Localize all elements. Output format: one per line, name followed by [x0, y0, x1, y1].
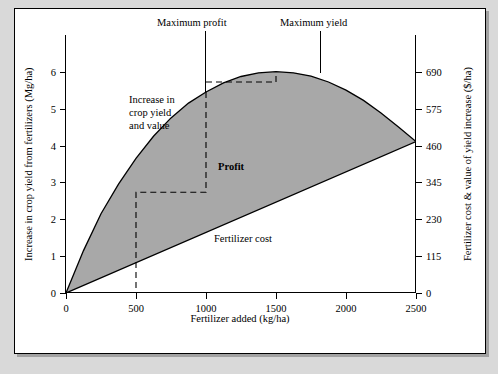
y-axis-right: 0 115 230 345 460 575 690: [415, 35, 416, 293]
y-label-left-2: 2: [40, 214, 56, 225]
y-tick-left-4: [60, 146, 66, 147]
annotation-yield-increase-line2: crop yield: [129, 106, 175, 119]
annotation-maximum-profit: Maximum profit: [157, 17, 227, 28]
x-label-1500: 1500: [266, 303, 287, 314]
leader-maximum-yield: [320, 31, 321, 73]
y-label-left-0: 0: [40, 288, 56, 299]
x-tick-500: [136, 293, 137, 299]
x-tick-1000: [206, 293, 207, 299]
y-tick-right-575: [416, 109, 422, 110]
x-label-0: 0: [63, 303, 68, 314]
y-tick-left-1: [60, 256, 66, 257]
annotation-fertilizer-cost: Fertilizer cost: [214, 233, 272, 244]
figure-panel: Increase in crop yield from fertilizers …: [14, 8, 486, 354]
y-label-left-6: 6: [40, 66, 56, 77]
y-label-right-230: 230: [426, 214, 442, 225]
y-tick-right-460: [416, 146, 422, 147]
profit-area-shape: [66, 72, 416, 293]
y-label-right-690: 690: [426, 66, 442, 77]
y-axis-left-title: Increase in crop yield from fertilizers …: [23, 35, 34, 293]
y-tick-right-0: [416, 293, 422, 294]
x-axis-title: Fertilizer added (kg/ha): [65, 313, 415, 324]
x-label-2000: 2000: [336, 303, 357, 314]
x-tick-2000: [346, 293, 347, 299]
y-label-left-3: 3: [40, 177, 56, 188]
annotation-maximum-yield: Maximum yield: [280, 17, 347, 28]
plot-area: 0 1 2 3 4 5 6 0 500 1000 1500 2000 2500 …: [65, 35, 415, 293]
y-label-left-1: 1: [40, 251, 56, 262]
annotation-yield-increase-line3: and value: [129, 119, 175, 132]
x-label-1000: 1000: [196, 303, 217, 314]
y-tick-left-2: [60, 219, 66, 220]
annotation-profit: Profit: [218, 161, 244, 172]
x-label-2500: 2500: [406, 303, 427, 314]
y-tick-right-230: [416, 219, 422, 220]
y-label-right-115: 115: [426, 251, 441, 262]
y-tick-right-690: [416, 72, 422, 73]
y-tick-right-115: [416, 256, 422, 257]
y-label-right-575: 575: [426, 103, 442, 114]
y-label-right-460: 460: [426, 140, 442, 151]
x-tick-0: [66, 293, 67, 299]
y-label-left-4: 4: [40, 140, 56, 151]
annotation-yield-increase-line1: Increase in: [129, 93, 175, 106]
y-tick-left-3: [60, 182, 66, 183]
annotation-yield-increase: Increase in crop yield and value: [129, 93, 175, 132]
y-tick-left-6: [60, 72, 66, 73]
y-label-left-5: 5: [40, 103, 56, 114]
y-tick-right-345: [416, 182, 422, 183]
y-tick-left-5: [60, 109, 66, 110]
y-axis-right-title: Fertilizer cost & value of yield increas…: [462, 35, 473, 293]
y-label-right-345: 345: [426, 177, 442, 188]
caption-strip: [0, 356, 120, 374]
x-tick-1500: [276, 293, 277, 299]
x-label-500: 500: [128, 303, 144, 314]
y-label-right-0: 0: [426, 288, 431, 299]
leader-maximum-profit: [205, 31, 206, 92]
